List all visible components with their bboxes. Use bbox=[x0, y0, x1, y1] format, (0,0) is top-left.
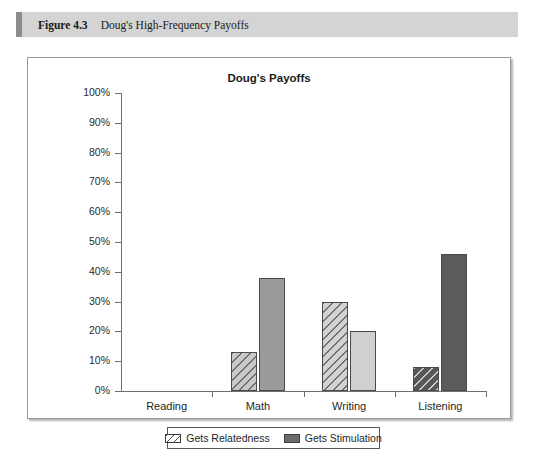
chart-bar bbox=[413, 367, 439, 391]
x-axis-tick bbox=[395, 391, 396, 397]
legend-item: Gets Stimulation bbox=[284, 432, 382, 444]
y-axis-tick-label: 0% bbox=[44, 384, 110, 396]
y-axis-tick-label: 40% bbox=[44, 265, 110, 277]
y-axis-tick-label: 60% bbox=[44, 205, 110, 217]
y-axis-tick-label: 90% bbox=[44, 116, 110, 128]
y-axis-tick-label: 70% bbox=[44, 175, 110, 187]
x-axis-category-label: Reading bbox=[121, 400, 212, 412]
figure-number-label: Figure 4.3 bbox=[38, 19, 88, 31]
x-axis-category-label: Listening bbox=[395, 400, 486, 412]
hatched-swatch bbox=[165, 434, 181, 443]
y-axis-tick-label: 10% bbox=[44, 354, 110, 366]
chart-bar bbox=[322, 302, 348, 391]
chart-legend: Gets RelatednessGets Stimulation bbox=[167, 427, 380, 449]
y-axis-tick-label: 80% bbox=[44, 146, 110, 158]
y-axis-tick bbox=[115, 391, 121, 392]
legend-item-label: Gets Relatedness bbox=[186, 432, 269, 444]
chart-bar bbox=[350, 331, 376, 391]
chart-bar bbox=[259, 278, 285, 391]
plot-area bbox=[121, 93, 486, 391]
y-axis-tick-label: 20% bbox=[44, 324, 110, 336]
figure-caption-band: Figure 4.3 Doug's High-Frequency Payoffs bbox=[22, 12, 518, 37]
x-axis-tick bbox=[304, 391, 305, 397]
y-axis-tick-label: 50% bbox=[44, 235, 110, 247]
chart-frame: Doug's Payoffs 100%90%80%70%60%50%40%30%… bbox=[27, 57, 511, 419]
chart-title: Doug's Payoffs bbox=[28, 72, 510, 84]
x-axis-tick bbox=[486, 391, 487, 397]
y-axis-tick-label: 100% bbox=[44, 86, 110, 98]
chart-bar bbox=[231, 352, 257, 391]
figure-title-label: Doug's High-Frequency Payoffs bbox=[101, 19, 249, 31]
legend-item: Gets Relatedness bbox=[165, 432, 269, 444]
x-axis-tick bbox=[212, 391, 213, 397]
chart-bar bbox=[441, 254, 467, 391]
x-axis-category-label: Writing bbox=[304, 400, 395, 412]
x-axis-category-label: Math bbox=[212, 400, 303, 412]
y-axis-tick-label: 30% bbox=[44, 295, 110, 307]
solid-swatch bbox=[284, 434, 300, 443]
legend-item-label: Gets Stimulation bbox=[305, 432, 382, 444]
